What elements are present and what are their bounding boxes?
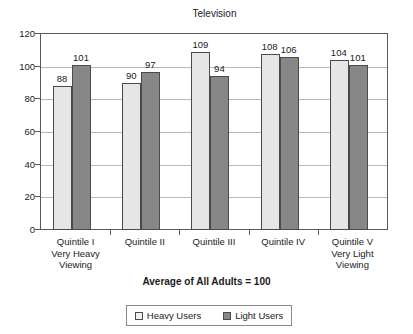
category-label-line: Viewing [41, 259, 110, 271]
bar-light-users[interactable] [210, 76, 229, 230]
category-label-line: Quintile II [110, 236, 179, 248]
category-label: Quintile VVery LightViewing [318, 236, 387, 271]
category-label-line: Quintile III [179, 236, 248, 248]
category-label-line: Quintile I [41, 236, 110, 248]
chart-title: Television [40, 8, 389, 19]
bar-value-label: 109 [183, 39, 217, 50]
y-axis-tick-mark [35, 33, 40, 34]
category-label-line: Very Heavy [41, 248, 110, 260]
bar-value-label: 101 [64, 52, 98, 63]
legend-swatch-heavy-users [135, 312, 143, 320]
bar-value-label: 106 [272, 44, 306, 55]
bar-heavy-users[interactable] [330, 60, 349, 230]
bar-group: 10994 [179, 34, 248, 230]
bar-value-label: 97 [133, 59, 167, 70]
bar-heavy-users[interactable] [53, 86, 72, 230]
y-axis-labels: 020406080100120 [2, 33, 35, 230]
bar-group: 104101 [318, 34, 387, 230]
bar-light-users[interactable] [349, 65, 368, 230]
bar-heavy-users[interactable] [191, 52, 210, 230]
y-axis-tick-mark [35, 131, 40, 132]
category-label: Quintile II [110, 236, 179, 248]
bar-heavy-users[interactable] [122, 83, 141, 230]
y-axis-tick-mark [35, 229, 40, 230]
bar-light-users[interactable] [72, 65, 91, 230]
x-axis-tick-marks [41, 230, 387, 235]
category-label-line: Quintile IV [249, 236, 318, 248]
category-label-line: Quintile V [318, 236, 387, 248]
y-axis-tick-mark [35, 196, 40, 197]
x-axis-tick-mark [179, 230, 180, 235]
x-axis-tick-mark [318, 230, 319, 235]
legend-label: Light Users [235, 310, 283, 321]
bar-chart: Television 020406080100120 8810190971099… [0, 0, 413, 334]
y-axis-tick-mark [35, 66, 40, 67]
x-axis-tick-mark [249, 230, 250, 235]
y-axis-tick-label: 60 [5, 126, 35, 137]
y-axis-tick-label: 120 [5, 28, 35, 39]
x-axis-tick-mark [110, 230, 111, 235]
bar-group: 88101 [41, 34, 110, 230]
y-axis-tick-mark [35, 164, 40, 165]
bar-light-users[interactable] [141, 72, 160, 230]
bar-value-label: 94 [202, 63, 236, 74]
legend-swatch-light-users [223, 312, 231, 320]
legend-label: Heavy Users [147, 310, 201, 321]
bar-group: 108106 [249, 34, 318, 230]
legend-item-heavy-users[interactable]: Heavy Users [135, 310, 201, 321]
chart-subtitle: Average of All Adults = 100 [0, 276, 413, 287]
legend-item-light-users[interactable]: Light Users [223, 310, 283, 321]
y-axis-tick-label: 100 [5, 60, 35, 71]
category-label-line: Viewing [318, 259, 387, 271]
category-label: Quintile IV [249, 236, 318, 248]
category-label: Quintile III [179, 236, 248, 248]
bar-light-users[interactable] [280, 57, 299, 230]
y-axis-tick-mark [35, 98, 40, 99]
y-axis-tick-label: 80 [5, 93, 35, 104]
bar-value-label: 101 [341, 52, 375, 63]
bar-group: 9097 [110, 34, 179, 230]
bars-layer: 88101909710994108106104101 [41, 34, 387, 230]
chart-legend: Heavy UsersLight Users [126, 305, 292, 326]
y-axis-tick-label: 0 [5, 224, 35, 235]
y-axis-tick-label: 20 [5, 191, 35, 202]
category-label-line: Very Light [318, 248, 387, 260]
bar-heavy-users[interactable] [261, 54, 280, 230]
category-label: Quintile IVery HeavyViewing [41, 236, 110, 271]
y-axis-tick-label: 40 [5, 158, 35, 169]
x-axis-category-labels: Quintile IVery HeavyViewingQuintile IIQu… [41, 236, 387, 276]
